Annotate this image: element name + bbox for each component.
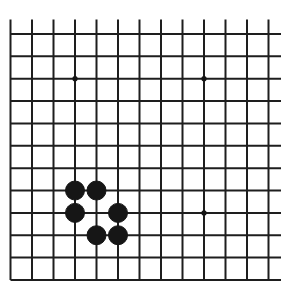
star-point-icon [72, 76, 77, 81]
go-board-grid[interactable] [0, 0, 299, 282]
black-stone[interactable] [87, 181, 106, 200]
black-stone[interactable] [66, 181, 85, 200]
star-point-icon [201, 76, 206, 81]
black-stone[interactable] [109, 203, 128, 222]
black-stone[interactable] [87, 226, 106, 245]
go-board[interactable] [0, 0, 299, 282]
grid-lines [11, 20, 282, 281]
black-stone[interactable] [109, 226, 128, 245]
star-point-icon [201, 210, 206, 215]
black-stone[interactable] [66, 203, 85, 222]
